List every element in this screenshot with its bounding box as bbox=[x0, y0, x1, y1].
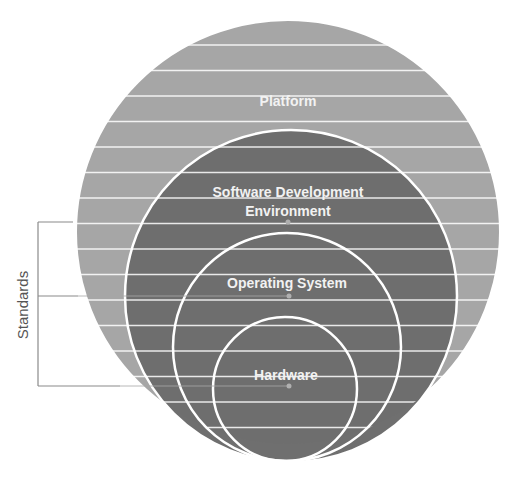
platform-label: Platform bbox=[260, 93, 317, 109]
hardware-center-dot bbox=[287, 384, 292, 389]
layered-platform-diagram: Platform Software Development Environmen… bbox=[0, 0, 523, 477]
standards-label: Standards bbox=[14, 271, 31, 339]
sde-label-line2: Environment bbox=[245, 203, 331, 219]
hardware-label: Hardware bbox=[254, 367, 318, 383]
os-center-dot bbox=[287, 294, 292, 299]
os-label: Operating System bbox=[227, 275, 347, 291]
sde-label-line1: Software Development bbox=[213, 184, 364, 200]
sde-center-dot bbox=[286, 220, 291, 225]
